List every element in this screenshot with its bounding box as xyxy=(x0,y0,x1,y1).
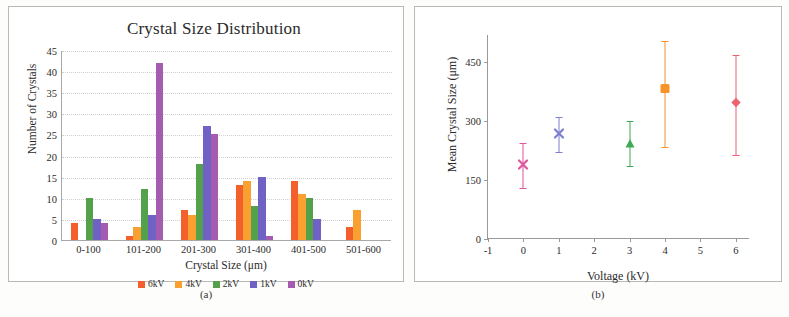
chart-a-x-axis-label: Crystal Size (μm) xyxy=(61,259,391,271)
chart-a-bar xyxy=(211,134,219,240)
chart-a-bar-group xyxy=(117,50,172,240)
chart-b-point xyxy=(655,35,675,239)
chart-b-x-tick: 6 xyxy=(733,245,738,256)
chart-a-y-tick: 45 xyxy=(47,46,58,57)
chart-a-y-tick: 10 xyxy=(47,193,58,204)
chart-b-error-cap xyxy=(626,121,633,122)
chart-b-error-cap xyxy=(555,117,562,118)
chart-b-x-tickmark xyxy=(488,238,489,242)
chart-b-error-cap xyxy=(520,143,527,144)
chart-a-bar xyxy=(71,223,79,240)
chart-a-bar xyxy=(133,227,141,240)
chart-b-error-cap xyxy=(520,188,527,189)
chart-b-point xyxy=(513,35,533,239)
chart-a-bar xyxy=(306,198,314,240)
chart-b-x-tick: 2 xyxy=(592,245,597,256)
chart-b-x-tick: 1 xyxy=(556,245,561,256)
chart-b-y-tickmark xyxy=(484,180,488,181)
chart-a-x-tick: 101-200 xyxy=(116,244,171,255)
chart-panel-b: Mean Crystal Size (μm) 0150300450 -10123… xyxy=(414,6,782,282)
chart-a-bar-group xyxy=(172,50,227,240)
chart-b-y-tickmark xyxy=(484,62,488,63)
chart-a-y-tick: 30 xyxy=(47,109,58,120)
chart-b-marker-triangle-icon xyxy=(623,136,636,154)
chart-a-bar xyxy=(148,215,156,240)
chart-b-error-cap xyxy=(626,166,633,167)
chart-b-x-tick: 0 xyxy=(521,245,526,256)
chart-b-x-axis-label: Voltage (kV) xyxy=(487,269,749,284)
figure-root: Crystal Size Distribution Number of Crys… xyxy=(0,0,789,317)
chart-a-plot-area: 051015202530354045 xyxy=(61,51,391,241)
chart-b-marker-square-icon xyxy=(659,81,672,99)
chart-b-x-tick: 5 xyxy=(698,245,703,256)
chart-a-bar-groups xyxy=(62,50,392,240)
chart-a-x-tick: 301-400 xyxy=(226,244,281,255)
chart-a-bar xyxy=(298,194,306,240)
chart-a-y-tick: 5 xyxy=(52,214,57,225)
chart-b-marker-diamond-icon xyxy=(729,95,742,113)
chart-a-x-tick: 201-300 xyxy=(171,244,226,255)
chart-a-y-tick: 15 xyxy=(47,172,58,183)
chart-a-y-tick: 35 xyxy=(47,88,58,99)
chart-b-plot-area: 0150300450 -10123456 xyxy=(487,35,749,239)
chart-a-bar xyxy=(313,219,321,240)
chart-a-bar xyxy=(141,189,149,240)
chart-b-point xyxy=(549,35,569,239)
chart-a-bar xyxy=(86,198,94,240)
chart-a-bar xyxy=(196,164,204,240)
chart-a-bar-group xyxy=(282,50,337,240)
chart-b-x-tick: 4 xyxy=(662,245,667,256)
chart-b-y-tickmark xyxy=(484,121,488,122)
chart-a-bar xyxy=(126,236,134,240)
chart-b-point xyxy=(620,35,640,239)
chart-b-marker-x-icon xyxy=(552,126,565,144)
chart-b-x-tick: 3 xyxy=(627,245,632,256)
chart-a-bar xyxy=(258,177,266,240)
chart-a-y-tick: 0 xyxy=(52,236,57,247)
chart-a-y-axis-label: Number of Crystals xyxy=(26,34,38,184)
chart-a-legend-swatch xyxy=(213,281,220,288)
chart-b-y-axis-label: Mean Crystal Size (μm) xyxy=(445,30,460,200)
chart-a-bar xyxy=(181,210,189,240)
chart-a-bar xyxy=(266,236,274,240)
chart-b-marker-x-icon xyxy=(517,157,530,175)
chart-a-x-tick: 401-500 xyxy=(281,244,336,255)
chart-a-title: Crystal Size Distribution xyxy=(49,19,379,39)
chart-a-legend-swatch xyxy=(175,281,182,288)
chart-a-bar xyxy=(291,181,299,240)
chart-b-y-tick: 300 xyxy=(465,116,481,127)
chart-a-x-tick-labels: 0-100101-200201-300301-400401-500501-600 xyxy=(61,244,391,255)
chart-b-x-tick: -1 xyxy=(484,245,493,256)
chart-a-y-tick: 40 xyxy=(47,67,58,78)
chart-b-x-tickmark xyxy=(700,238,701,242)
chart-a-x-tick: 501-600 xyxy=(336,244,391,255)
chart-a-legend-swatch xyxy=(138,281,145,288)
chart-a-bar xyxy=(243,181,251,240)
chart-b-y-tick: 450 xyxy=(465,57,481,68)
chart-a-x-tick: 0-100 xyxy=(61,244,116,255)
chart-a-bar-group xyxy=(337,50,392,240)
chart-a-bar xyxy=(236,185,244,240)
chart-b-error-cap xyxy=(662,147,669,148)
chart-a-legend-swatch xyxy=(288,281,295,288)
chart-a-bar-group xyxy=(62,50,117,240)
chart-b-point xyxy=(726,35,746,239)
chart-b-error-cap xyxy=(732,155,739,156)
chart-b-error-cap xyxy=(662,41,669,42)
chart-a-bar xyxy=(101,223,109,240)
chart-b-x-tickmark xyxy=(594,238,595,242)
chart-a-y-tick: 20 xyxy=(47,151,58,162)
chart-a-bar xyxy=(251,206,259,240)
chart-a-y-tick: 25 xyxy=(47,130,58,141)
chart-a-bar xyxy=(353,210,361,240)
chart-a-legend-swatch xyxy=(250,281,257,288)
chart-b-y-tick: 150 xyxy=(465,175,481,186)
caption-a: (a) xyxy=(0,288,412,300)
chart-b-error-cap xyxy=(732,55,739,56)
chart-a-bar xyxy=(156,63,164,240)
chart-b-error-cap xyxy=(555,152,562,153)
chart-panel-a: Crystal Size Distribution Number of Crys… xyxy=(8,6,404,282)
chart-b-y-tick: 0 xyxy=(476,234,481,245)
chart-a-bar-group xyxy=(227,50,282,240)
chart-a-bar xyxy=(188,215,196,240)
